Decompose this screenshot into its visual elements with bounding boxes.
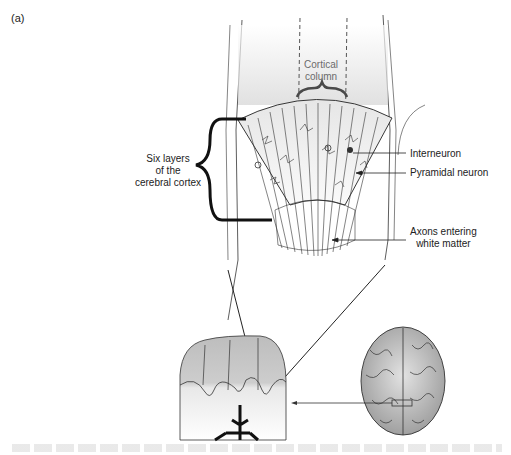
six-layers-label: Six layers of the cerebral cortex: [116, 153, 220, 189]
cortex-layers-fan: [238, 99, 392, 256]
six-layers-label-line: Six layers: [116, 153, 220, 165]
brain-top-view: [361, 327, 445, 435]
figure-caption-cutoff: [12, 444, 502, 452]
pyramidal-neuron-label: Pyramidal neuron: [410, 167, 488, 179]
six-layers-label-line: cerebral cortex: [116, 177, 220, 189]
axons-label: Axons entering white matter: [410, 226, 477, 250]
cortical-column-label-line: Cortical: [299, 59, 343, 71]
panel-label: (a): [11, 12, 24, 24]
brain-coronal-section: [180, 336, 286, 440]
six-layers-label-line: of the: [116, 165, 220, 177]
interneuron-label: Interneuron: [410, 148, 461, 160]
axons-label-line: white matter: [410, 238, 477, 250]
axons-label-line: Axons entering: [410, 226, 477, 238]
cortical-column-label: Cortical column: [299, 59, 343, 83]
cortical-column-label-line: column: [299, 71, 343, 83]
